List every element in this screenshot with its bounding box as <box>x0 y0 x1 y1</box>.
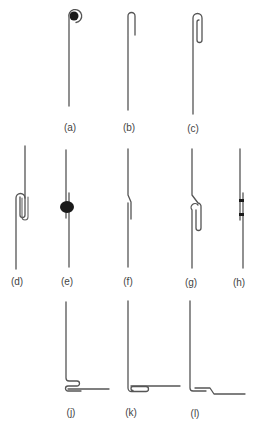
panel-label-c: (c) <box>187 123 199 134</box>
panel-label-d: (d) <box>11 276 23 287</box>
loop-wire <box>193 14 202 115</box>
panel-l-drawing <box>190 301 245 394</box>
panel-a-drawing <box>69 10 82 106</box>
panel-f-drawing <box>128 149 131 267</box>
panel-label-l: (l) <box>191 408 200 419</box>
panel-g-drawing <box>191 149 201 268</box>
panel-label-f: (f) <box>123 276 132 287</box>
panel-e-drawing <box>60 150 74 267</box>
hook-wire <box>128 13 135 111</box>
diagram-figure: (a) (b) (c) (d) (e) (f) (g) (h) (j) (k) … <box>0 0 261 426</box>
vertical-wire <box>190 301 206 391</box>
spot-weld-icon <box>239 199 244 202</box>
panel-h-drawing <box>239 149 244 268</box>
panel-label-h: (h) <box>233 277 245 288</box>
panel-b-drawing <box>128 13 135 111</box>
coil-wire <box>69 10 82 106</box>
panel-label-b: (b) <box>123 122 135 133</box>
upper-looped-wire <box>192 149 201 231</box>
diagram-drawing <box>0 0 261 426</box>
lower-wire <box>191 204 198 268</box>
panel-d-drawing <box>16 146 28 269</box>
panel-j-drawing <box>66 302 110 391</box>
panel-label-g: (g) <box>185 277 197 288</box>
panel-label-e: (e) <box>61 276 73 287</box>
coil-core-icon <box>70 12 79 21</box>
panel-label-a: (a) <box>64 122 76 133</box>
panel-label-k: (k) <box>125 407 137 418</box>
spot-weld-icon <box>239 213 244 216</box>
panel-c-drawing <box>193 14 202 115</box>
s-fold-wire <box>66 302 82 391</box>
wrapped-fold-wire <box>128 301 149 392</box>
panel-k-drawing <box>128 301 180 392</box>
weld-blob-icon <box>60 201 74 213</box>
panel-label-j: (j) <box>67 407 76 418</box>
